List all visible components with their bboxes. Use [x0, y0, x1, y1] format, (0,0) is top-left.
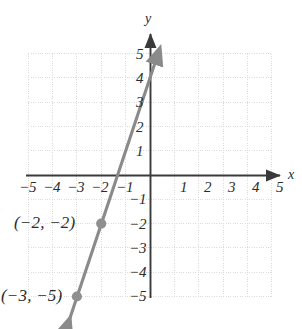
- point-label-minus2-minus2: (−2, −2): [14, 214, 75, 231]
- x-tick-label: 5: [276, 180, 284, 195]
- y-tick-label: −4: [129, 265, 147, 280]
- x-tick-label: −4: [43, 180, 61, 195]
- y-axis-label: y: [145, 12, 151, 26]
- data-point: [72, 291, 82, 301]
- x-tick-label: 4: [252, 180, 260, 195]
- x-tick-label: −5: [19, 180, 37, 195]
- x-tick-label: 2: [204, 180, 212, 195]
- x-tick-label: −2: [91, 180, 109, 195]
- y-tick-label: −2: [129, 217, 147, 232]
- y-tick-label: 2: [136, 120, 144, 135]
- point-label-minus3-minus5: (−3, −5): [1, 287, 62, 304]
- y-tick-label: 5: [136, 47, 144, 62]
- x-tick-label: 1: [180, 180, 188, 195]
- y-tick-label: −3: [129, 241, 147, 256]
- graph-figure: x y −5 −4 −3 −2 −1 1 2 3 4 5 5 4 3 2 1 −…: [0, 0, 302, 329]
- y-tick-label: 4: [136, 71, 144, 86]
- y-tick-label: 1: [136, 144, 144, 159]
- x-tick-label: −3: [67, 180, 85, 195]
- y-tick-label: −1: [129, 192, 147, 207]
- data-point: [96, 219, 106, 229]
- x-tick-label: 3: [228, 180, 236, 195]
- coordinate-plane: [0, 0, 302, 329]
- y-tick-label: −5: [129, 289, 147, 304]
- y-tick-label: 3: [136, 95, 144, 110]
- x-axis-label: x: [288, 168, 294, 182]
